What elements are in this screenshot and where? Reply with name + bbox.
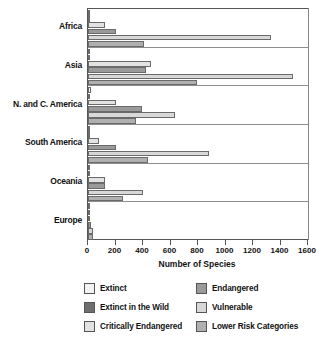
plot-panel — [87, 8, 309, 240]
plot-area: AfricaAsiaN. and C. AmericaSouth America… — [0, 8, 327, 248]
tick-mark — [252, 240, 253, 245]
bar — [88, 222, 91, 228]
legend-item[interactable]: Critically Endangered — [84, 321, 182, 332]
category-label-asia: Asia — [0, 60, 82, 70]
bar — [88, 183, 105, 189]
species-bar-chart: AfricaAsiaN. and C. AmericaSouth America… — [0, 0, 327, 346]
legend-swatch-icon — [196, 302, 207, 313]
bar — [88, 145, 116, 151]
legend-item[interactable]: Extinct in the Wild — [84, 302, 169, 313]
legend-item[interactable]: Vulnerable — [196, 302, 253, 313]
bar — [88, 171, 90, 177]
bar — [88, 165, 90, 171]
panel-top-border — [88, 8, 308, 9]
bar — [88, 228, 93, 234]
tick-mark — [225, 240, 226, 245]
row-separator — [88, 85, 308, 86]
row-separator — [88, 47, 308, 48]
bar — [88, 74, 293, 80]
bar — [88, 138, 99, 144]
tick-mark — [307, 240, 308, 245]
tick-label: 200 — [108, 246, 121, 255]
legend-label: Lower Risk Categories — [212, 322, 298, 331]
bar — [88, 29, 116, 35]
bar — [88, 190, 143, 196]
category-axis-labels: AfricaAsiaN. and C. AmericaSouth America… — [0, 8, 82, 240]
category-label-oceania: Oceania — [0, 176, 82, 186]
tick-label: 400 — [135, 246, 148, 255]
bar — [88, 10, 90, 16]
legend-item[interactable]: Lower Risk Categories — [196, 321, 298, 332]
legend-item[interactable]: Endangered — [196, 283, 258, 294]
chart-legend: ExtinctExtinct in the WildCritically End… — [84, 283, 322, 341]
tick-label: 1200 — [243, 246, 261, 255]
category-label-south-america: South America — [0, 137, 82, 147]
legend-swatch-icon — [84, 302, 95, 313]
legend-label: Extinct — [100, 284, 127, 293]
tick-label: 0 — [85, 246, 89, 255]
legend-swatch-icon — [196, 283, 207, 294]
x-axis-title: Number of Species — [87, 259, 307, 269]
x-axis-ticks: 02004006008001000120014001600 — [87, 240, 307, 260]
tick-label: 600 — [163, 246, 176, 255]
category-label-africa: Africa — [0, 21, 82, 31]
bar — [88, 203, 90, 209]
bar — [88, 132, 90, 138]
tick-mark — [115, 240, 116, 245]
legend-swatch-icon — [84, 283, 95, 294]
legend-swatch-icon — [196, 321, 207, 332]
bar — [88, 177, 105, 183]
bar — [88, 151, 209, 157]
bar — [88, 49, 90, 55]
bar — [88, 61, 151, 67]
bar — [88, 210, 90, 216]
tick-label: 800 — [190, 246, 203, 255]
tick-label: 1600 — [298, 246, 316, 255]
bar — [88, 106, 142, 112]
tick-mark — [142, 240, 143, 245]
bar — [88, 22, 105, 28]
legend-label: Vulnerable — [212, 303, 253, 312]
tick-label: 1400 — [271, 246, 289, 255]
row-separator — [88, 163, 308, 164]
tick-mark — [197, 240, 198, 245]
tick-mark — [280, 240, 281, 245]
bar — [88, 94, 90, 100]
row-separator — [88, 124, 308, 125]
row-separator — [88, 201, 308, 202]
category-label-europe: Europe — [0, 215, 82, 225]
legend-label: Extinct in the Wild — [100, 303, 169, 312]
tick-mark — [170, 240, 171, 245]
legend-label: Critically Endangered — [100, 322, 182, 331]
bar — [88, 100, 116, 106]
category-label-n-and-c-america: N. and C. America — [0, 99, 82, 109]
legend-item[interactable]: Extinct — [84, 283, 127, 294]
bar — [88, 126, 90, 132]
bar — [88, 67, 146, 73]
bar — [88, 35, 271, 41]
bar — [88, 55, 90, 61]
bar — [88, 112, 175, 118]
bar — [88, 16, 90, 22]
legend-label: Endangered — [212, 284, 258, 293]
tick-mark — [87, 240, 88, 245]
bar — [88, 87, 91, 93]
tick-label: 1000 — [216, 246, 234, 255]
bar — [88, 216, 90, 222]
legend-swatch-icon — [84, 321, 95, 332]
